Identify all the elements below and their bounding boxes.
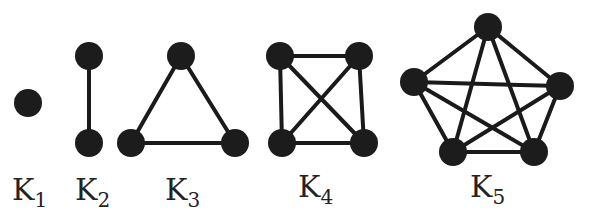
graph-label: K5 xyxy=(470,169,505,209)
graph-label-subscript: 2 xyxy=(97,188,110,212)
vertex xyxy=(400,68,428,96)
vertex xyxy=(546,72,574,100)
graph-label-subscript: 4 xyxy=(320,185,333,209)
complete-graphs-diagram: K1K2K3K4K5 xyxy=(0,0,600,220)
graph-label: K2 xyxy=(75,172,110,212)
graph-k5: K5 xyxy=(400,13,574,209)
vertex xyxy=(520,138,548,166)
graph-label-subscript: 1 xyxy=(34,188,47,212)
graph-k3: K3 xyxy=(117,42,249,212)
vertex xyxy=(350,129,378,157)
vertex xyxy=(266,42,294,70)
edge xyxy=(181,56,235,143)
graph-label-subscript: 5 xyxy=(492,185,505,209)
vertex xyxy=(439,138,467,166)
edge xyxy=(131,56,181,143)
graph-label-subscript: 3 xyxy=(187,188,200,212)
graph-label: K3 xyxy=(165,172,200,212)
vertex xyxy=(167,42,195,70)
graph-label: K4 xyxy=(298,169,333,209)
vertex xyxy=(75,129,103,157)
vertex xyxy=(75,42,103,70)
vertex xyxy=(117,129,145,157)
graph-k2: K2 xyxy=(75,42,110,212)
graph-k4: K4 xyxy=(266,42,378,209)
edge xyxy=(414,82,560,86)
graph-label: K1 xyxy=(12,172,47,212)
graph-k1: K1 xyxy=(12,89,47,212)
vertex xyxy=(474,13,502,41)
vertex xyxy=(268,129,296,157)
vertex xyxy=(345,42,373,70)
vertex xyxy=(221,129,249,157)
vertex xyxy=(14,89,42,117)
